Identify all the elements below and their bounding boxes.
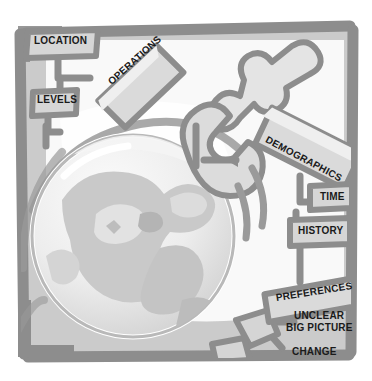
illustration-canvas: LOCATION LEVELS OPERATIONS DEMOGRAPHICS …	[0, 0, 372, 381]
globe-diagram-artwork	[0, 0, 372, 381]
